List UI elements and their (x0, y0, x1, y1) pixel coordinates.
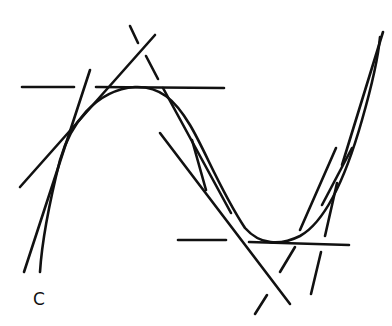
tangent-horizontal-top (96, 87, 224, 88)
tangent-middle-descending (160, 133, 290, 304)
tangent-right-broken-2b (311, 252, 321, 294)
tangent-left-diagonal (20, 35, 155, 187)
curve-tangent-diagram (0, 0, 392, 326)
tangent-horizontal-bottom (249, 242, 349, 245)
tangent-top-right-broken-b (146, 56, 158, 79)
tangent-right-broken-1c (255, 295, 267, 314)
tangent-right-steep (342, 32, 383, 165)
tangent-top-right-broken-a (130, 26, 138, 43)
tangent-right-broken-1b (280, 247, 295, 272)
diagram-canvas: C (0, 0, 392, 326)
curve-label: C (33, 289, 45, 309)
curve-C (40, 37, 380, 272)
tangent-right-steep-b (322, 148, 352, 205)
